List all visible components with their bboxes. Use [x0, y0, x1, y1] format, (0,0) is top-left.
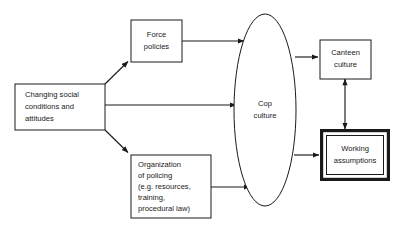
edge-social-to-force-policies [105, 62, 128, 85]
edge-social-to-organization [105, 130, 128, 153]
working-assumptions-outer-box [322, 131, 389, 180]
organization-line-4: training, [138, 193, 165, 202]
node-changing-social-conditions[interactable]: Changing social conditions and attitudes [15, 84, 105, 130]
working-assumptions-line-2: assumptions [334, 156, 377, 165]
organization-line-5: procedural law) [138, 204, 190, 213]
canteen-culture-line-2: culture [334, 60, 357, 69]
organization-line-3: (e.g. resources, [138, 182, 191, 191]
changing-social-line-2: conditions and [25, 102, 74, 111]
changing-social-line-1: Changing social [25, 90, 79, 99]
node-canteen-culture[interactable]: Canteen culture [320, 40, 371, 79]
working-assumptions-line-1: Working [341, 144, 369, 153]
diagram-container: Changing social conditions and attitudes… [0, 0, 409, 234]
organization-line-2: of policing [138, 171, 172, 180]
canteen-culture-line-1: Canteen [331, 48, 360, 57]
cop-culture-line-1: Cop [258, 99, 272, 108]
organization-line-1: Organization [138, 160, 181, 169]
node-force-policies[interactable]: Force policies [131, 20, 182, 62]
node-cop-culture[interactable]: Cop culture [234, 14, 296, 206]
node-organization-of-policing[interactable]: Organization of policing (e.g. resources… [131, 155, 211, 218]
cop-culture-line-2: culture [254, 111, 277, 120]
node-working-assumptions[interactable]: Working assumptions [322, 131, 389, 180]
force-policies-line-1: Force [147, 30, 166, 39]
changing-social-line-3: attitudes [25, 114, 54, 123]
force-policies-box [131, 20, 182, 62]
cop-culture-ellipse [234, 14, 296, 206]
force-policies-line-2: policies [144, 42, 170, 51]
flow-diagram-canvas: Changing social conditions and attitudes… [0, 0, 409, 234]
